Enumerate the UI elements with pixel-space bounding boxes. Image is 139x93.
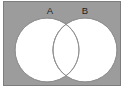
set-b-label: B	[82, 5, 88, 16]
venn-diagram-canvas: A B	[0, 0, 139, 93]
venn-diagram-figure: A B	[0, 0, 139, 93]
set-a-label: A	[47, 5, 54, 16]
